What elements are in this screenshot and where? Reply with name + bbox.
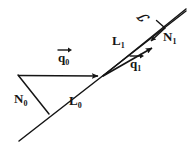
label-N0: N0 (14, 92, 27, 105)
figure-vector-canvas (0, 0, 193, 147)
label-L0-letter: L (69, 93, 78, 108)
label-N1-letter: N (163, 29, 172, 44)
tick-N1 (157, 21, 166, 29)
wavefront-refraction-figure: q0 q1 N0 N1 L0 L1 ℐ (0, 0, 193, 147)
label-N1: N1 (163, 30, 176, 43)
label-L0: L0 (69, 94, 82, 107)
label-L0-subscript: 0 (78, 101, 82, 110)
label-N0-subscript: 0 (23, 99, 27, 108)
label-q0-subscript: 0 (65, 58, 69, 67)
label-N1-subscript: 1 (172, 37, 176, 46)
label-q0: q0 (58, 51, 69, 64)
arrow-q1 (103, 48, 152, 76)
vector-arrow-overbar-q0 (57, 47, 72, 53)
label-q1: q1 (130, 57, 141, 70)
label-L1: L1 (112, 34, 125, 47)
arrow-q0 (18, 76, 98, 77)
label-N0-letter: N (14, 91, 23, 106)
label-q1-subscript: 1 (137, 64, 141, 73)
label-L1-letter: L (112, 33, 121, 48)
vector-arrow-overbar-q1 (129, 53, 144, 59)
label-L1-subscript: 1 (121, 41, 125, 50)
